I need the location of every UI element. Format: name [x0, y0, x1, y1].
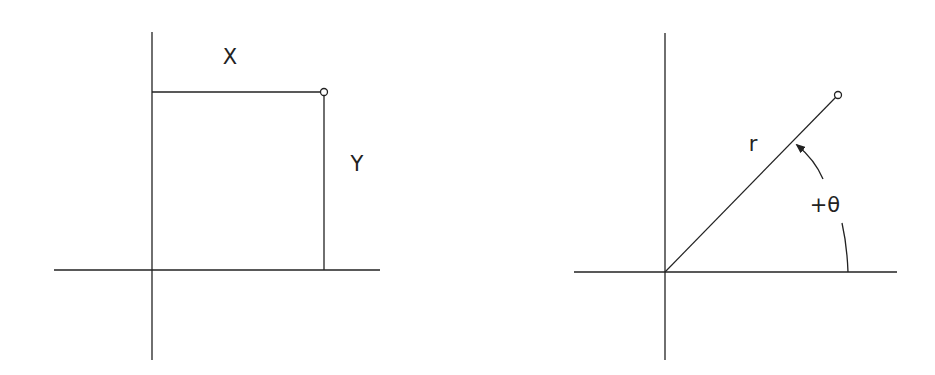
- angle-arrow: [797, 145, 823, 179]
- x-label: X: [223, 45, 237, 69]
- y-label: Y: [350, 152, 364, 176]
- angle-arc-tick: [842, 223, 848, 272]
- theta-label: +θ: [810, 193, 840, 217]
- polar-point-marker: [835, 92, 842, 99]
- radius-line: [665, 97, 836, 272]
- coordinate-diagram: X Y r +θ: [0, 0, 935, 375]
- polar-panel: r +θ: [574, 33, 897, 360]
- cartesian-panel: X Y: [54, 32, 380, 360]
- point-marker: [321, 89, 328, 96]
- r-label: r: [749, 132, 758, 156]
